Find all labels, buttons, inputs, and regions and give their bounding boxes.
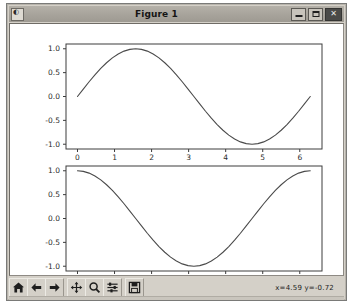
svg-text:4: 4 [223, 153, 228, 162]
forward-button[interactable] [45, 278, 64, 297]
pan-button[interactable] [67, 278, 86, 297]
axes-frame [66, 166, 322, 271]
window-titlebar: ◐ Figure 1 ✕ [9, 6, 344, 22]
magnifier-icon [88, 281, 101, 294]
svg-text:0.5: 0.5 [48, 190, 60, 199]
arrow-left-icon [30, 281, 43, 294]
home-button[interactable] [9, 278, 28, 297]
arrow-right-icon [48, 281, 61, 294]
svg-text:6: 6 [297, 153, 302, 162]
figure-canvas[interactable]: 0123456-1.0-0.50.00.51.00123456-1.0-0.50… [10, 24, 343, 275]
svg-text:-1.0: -1.0 [45, 262, 60, 271]
zoom-button[interactable] [85, 278, 104, 297]
sine-subplot: 0123456-1.0-0.50.00.51.0 [45, 44, 322, 162]
svg-text:0: 0 [75, 153, 80, 162]
matplotlib-icon: ◐ [11, 8, 24, 21]
series-cos(x) [77, 171, 310, 266]
svg-text:0.0: 0.0 [48, 92, 60, 101]
move-icon [70, 281, 83, 294]
back-button[interactable] [27, 278, 46, 297]
series-sin(x) [77, 49, 310, 144]
window-title: Figure 1 [24, 6, 289, 22]
svg-text:-0.5: -0.5 [45, 116, 60, 125]
window-statusbar [9, 296, 344, 300]
minimize-button[interactable] [291, 8, 306, 21]
svg-text:3: 3 [186, 153, 191, 162]
svg-text:2: 2 [149, 153, 154, 162]
cosine-subplot: 0123456-1.0-0.50.00.51.0 [45, 166, 322, 275]
close-button[interactable]: ✕ [325, 8, 342, 21]
figure-window: ◐ Figure 1 ✕ 0123456-1.0-0.50.00.51.0012… [6, 3, 347, 301]
svg-text:0.0: 0.0 [48, 214, 60, 223]
close-icon: ✕ [330, 10, 338, 18]
window-controls: ✕ [289, 8, 342, 21]
navigation-toolbar: x=4.59 y=-0.72 [9, 277, 344, 298]
floppy-disk-icon [128, 281, 141, 294]
svg-text:1.0: 1.0 [48, 166, 60, 175]
save-button[interactable] [125, 278, 144, 297]
matplotlib-icon-glyph: ◐ [13, 9, 19, 16]
svg-text:-0.5: -0.5 [45, 238, 60, 247]
svg-text:1.0: 1.0 [48, 44, 60, 53]
matplotlib-figure[interactable]: 0123456-1.0-0.50.00.51.00123456-1.0-0.50… [10, 24, 343, 275]
configure-subplots-button[interactable] [103, 278, 122, 297]
svg-text:-1.0: -1.0 [45, 140, 60, 149]
coordinate-display: x=4.59 y=-0.72 [275, 284, 334, 292]
sliders-icon [106, 281, 119, 294]
toolbar-buttons [9, 278, 143, 297]
maximize-button[interactable] [308, 8, 323, 21]
home-icon [12, 281, 25, 294]
svg-text:5: 5 [260, 153, 265, 162]
figure-canvas-area[interactable]: 0123456-1.0-0.50.00.51.00123456-1.0-0.50… [9, 23, 344, 276]
svg-text:0.5: 0.5 [48, 68, 60, 77]
svg-text:1: 1 [112, 153, 117, 162]
